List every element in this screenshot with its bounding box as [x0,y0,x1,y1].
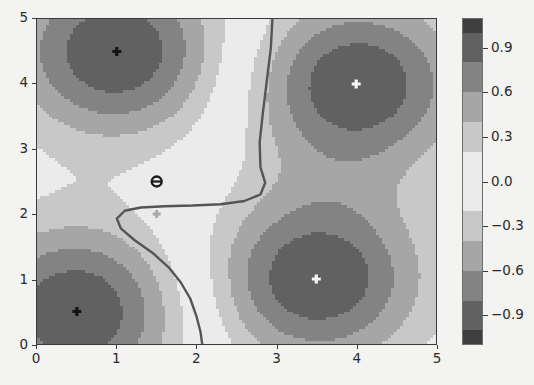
y-tick [32,345,36,346]
x-tick-label: 4 [337,350,377,366]
colorbar-gradient [463,19,482,344]
colorbar-tick [483,137,488,138]
y-tick-label: 2 [0,205,28,221]
x-tick-label: 5 [417,350,457,366]
colorbar-tick-label: −0.9 [491,306,524,322]
colorbar-tick [483,182,488,183]
x-tick [196,345,197,349]
colorbar-tick-label: 0.0 [491,173,512,189]
colorbar-tick-label: 0.9 [491,39,512,55]
x-tick-label: 3 [257,350,297,366]
x-tick-label: 2 [176,350,216,366]
colorbar-tick [483,48,488,49]
figure-canvas: 012345 012345 0.90.60.30.0−0.3−0.6−0.9 [0,0,534,385]
x-tick [437,345,438,349]
colorbar-tick-label: 0.6 [491,83,512,99]
colorbar-tick-label: −0.6 [491,262,524,278]
x-tick [116,345,117,349]
colorbar-tick-label: −0.3 [491,217,524,233]
x-tick [36,345,37,349]
plot-axes[interactable] [36,18,437,345]
x-tick-label: 0 [16,350,56,366]
colorbar-tick [483,92,488,93]
y-tick [32,214,36,215]
colorbar-tick [483,271,488,272]
x-tick [357,345,358,349]
x-tick-label: 1 [96,350,136,366]
y-tick-label: 0 [0,336,28,352]
colorbar[interactable] [462,18,483,345]
y-tick [32,18,36,19]
y-tick-label: 5 [0,9,28,25]
y-tick [32,280,36,281]
y-tick [32,83,36,84]
colorbar-tick [483,226,488,227]
y-tick-label: 3 [0,140,28,156]
contour-heatmap [37,19,436,344]
colorbar-tick [483,315,488,316]
x-tick [277,345,278,349]
colorbar-tick-label: 0.3 [491,128,512,144]
y-tick-label: 4 [0,74,28,90]
y-tick-label: 1 [0,271,28,287]
y-tick [32,149,36,150]
